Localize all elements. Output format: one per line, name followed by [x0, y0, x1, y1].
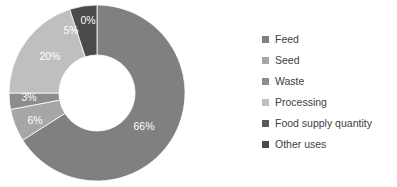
donut-chart-area: 66%6%3%20%0%5%: [0, 0, 200, 187]
donut-chart-svg: 66%6%3%20%0%5%: [0, 0, 200, 187]
donut-chart-figure: 66%6%3%20%0%5% FeedSeedWasteProcessingFo…: [0, 0, 397, 187]
legend-item[interactable]: Processing: [262, 92, 397, 113]
legend-item-label: Waste: [275, 71, 304, 92]
legend-item[interactable]: Feed: [262, 29, 397, 50]
slice-percent-label: 66%: [133, 120, 154, 132]
legend-item-label: Food supply quantity: [275, 113, 372, 134]
legend-swatch-icon: [262, 78, 269, 85]
legend-item[interactable]: Seed: [262, 50, 397, 71]
legend-swatch-icon: [262, 141, 269, 148]
legend-item[interactable]: Other uses: [262, 134, 397, 155]
legend-swatch-icon: [262, 99, 269, 106]
legend-swatch-icon: [262, 120, 269, 127]
legend-item-label: Processing: [275, 92, 327, 113]
legend-item[interactable]: Waste: [262, 71, 397, 92]
legend-item-label: Seed: [275, 50, 300, 71]
legend-item-label: Feed: [275, 29, 299, 50]
slice-percent-label: 5%: [63, 24, 78, 36]
legend-item[interactable]: Food supply quantity: [262, 113, 397, 134]
slice-percent-label: 6%: [27, 114, 42, 126]
chart-legend: FeedSeedWasteProcessingFood supply quant…: [262, 29, 397, 155]
slice-percent-label: 20%: [39, 50, 60, 62]
slice-percent-label: 3%: [21, 91, 36, 103]
legend-swatch-icon: [262, 57, 269, 64]
legend-item-label: Other uses: [275, 134, 326, 155]
legend-swatch-icon: [262, 36, 269, 43]
slice-percent-label: 0%: [80, 14, 95, 26]
